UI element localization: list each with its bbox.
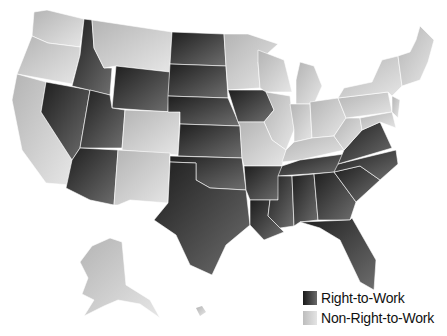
state-ne-states [398, 26, 434, 86]
legend-label: Right-to-Work [321, 290, 405, 306]
state-al [292, 174, 318, 226]
state-mi [296, 62, 322, 104]
legend: Right-to-Work Non-Right-to-Work [303, 288, 434, 328]
state-ak [80, 238, 160, 318]
swatch-right-to-work [303, 291, 317, 305]
state-in [290, 104, 312, 142]
state-ks [178, 124, 242, 158]
us-map [0, 0, 447, 336]
state-nm [114, 150, 170, 205]
state-wy [112, 66, 170, 112]
state-nd [170, 32, 226, 66]
legend-item-right-to-work: Right-to-Work [303, 288, 434, 308]
swatch-non-right-to-work [303, 311, 317, 325]
state-ar [244, 166, 282, 200]
state-co [122, 110, 180, 155]
state-fl [300, 218, 376, 290]
state-hi [196, 306, 206, 316]
state-nj [392, 96, 400, 118]
state-sd [168, 64, 228, 98]
state-ny [338, 56, 402, 98]
state-mt [92, 20, 172, 72]
legend-label: Non-Right-to-Work [321, 310, 434, 326]
state-wi [258, 50, 292, 92]
legend-item-non-right-to-work: Non-Right-to-Work [303, 308, 434, 328]
